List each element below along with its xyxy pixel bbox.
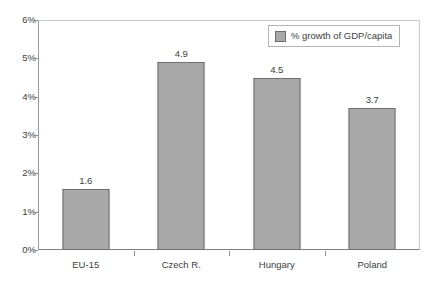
x-axis-label-hungary: Hungary: [222, 258, 332, 271]
legend-swatch-icon: [275, 31, 286, 42]
x-axis-label-eu-15: EU-15: [31, 258, 141, 271]
bar-group: 3.7: [325, 20, 421, 250]
bar[interactable]: [62, 189, 109, 250]
bar-value-label: 3.7: [342, 94, 402, 106]
bar[interactable]: [349, 108, 396, 250]
bar-value-label: 4.9: [151, 48, 211, 60]
y-tick-mark: [34, 250, 38, 251]
x-tick-mark: [229, 251, 230, 256]
y-tick-label: 2%: [0, 167, 36, 179]
bar-chart: 6% 5% 4% 3% 2% 1% 0% 1.6 4.9 4.5 3.7: [0, 0, 433, 284]
legend[interactable]: % growth of GDP/capita: [268, 25, 400, 47]
y-tick-label: 3%: [0, 129, 36, 141]
x-axis-label-czech-r: Czech R.: [126, 258, 236, 271]
y-tick-label: 0%: [0, 244, 36, 256]
bar-group: 1.6: [38, 20, 134, 250]
bar-group: 4.5: [229, 20, 325, 250]
y-tick-label: 1%: [0, 206, 36, 218]
x-axis-label-poland: Poland: [317, 258, 427, 271]
bars-layer: 1.6 4.9 4.5 3.7: [38, 20, 420, 250]
bar-value-label: 4.5: [247, 64, 307, 76]
x-tick-mark: [134, 251, 135, 256]
bar-group: 4.9: [134, 20, 230, 250]
bar-value-label: 1.6: [56, 175, 116, 187]
legend-item-label: % growth of GDP/capita: [291, 30, 392, 42]
bar[interactable]: [158, 62, 205, 250]
x-tick-mark: [325, 251, 326, 256]
bar[interactable]: [253, 78, 300, 251]
y-tick-label: 5%: [0, 52, 36, 64]
y-tick-label: 6%: [0, 14, 36, 26]
y-tick-label: 4%: [0, 91, 36, 103]
